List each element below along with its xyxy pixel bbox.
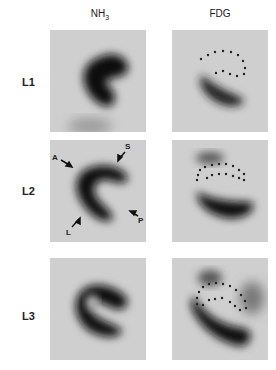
- dotted-contour: [200, 50, 246, 77]
- panel-l2-fdg: [172, 140, 268, 242]
- annotation-posterior: P: [138, 216, 143, 225]
- nh3-uptake-image: [50, 30, 146, 132]
- row-label-l1: L1: [22, 76, 35, 88]
- column-header-fdg: FDG: [190, 8, 250, 19]
- fdg-uptake-image: [172, 140, 268, 242]
- nh3-uptake-image: [50, 140, 146, 242]
- panel-l1-fdg: [172, 30, 268, 132]
- row-label-l2: L2: [22, 185, 35, 197]
- panel-l3-fdg: [172, 258, 268, 360]
- row-label-l3: L3: [22, 310, 35, 322]
- annotation-lateral: L: [66, 228, 71, 237]
- column-header-text: NH: [91, 8, 105, 19]
- panel-l1-nh3: [50, 30, 146, 132]
- fdg-uptake-image: [172, 258, 268, 360]
- panel-l3-nh3: [50, 258, 146, 360]
- annotation-anterior: A: [52, 153, 58, 162]
- column-header-nh3: NH3: [70, 8, 130, 21]
- annotation-septal: S: [125, 142, 130, 151]
- dotted-contour: [196, 163, 245, 181]
- fdg-uptake-image: [172, 30, 268, 132]
- dotted-contour: [196, 282, 247, 311]
- column-header-text: FDG: [209, 8, 230, 19]
- nh3-uptake-image: [50, 258, 146, 360]
- column-header-subscript: 3: [105, 14, 109, 21]
- panel-l2-nh3: [50, 140, 146, 242]
